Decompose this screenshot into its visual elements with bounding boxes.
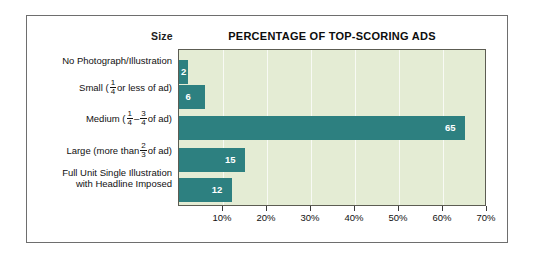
category-label-no-photograph: No Photograph/Illustration bbox=[8, 55, 178, 66]
fraction-denominator: 4 bbox=[110, 87, 116, 96]
fraction-numerator: 1 bbox=[127, 110, 133, 118]
fraction-three-quarters: 34 bbox=[140, 110, 146, 127]
fraction-numerator: 1 bbox=[110, 79, 116, 87]
bar-row-large: 15 bbox=[179, 148, 487, 172]
fraction-numerator: 3 bbox=[140, 110, 146, 118]
axis-label-40%: 40% bbox=[344, 212, 363, 223]
tick-40% bbox=[354, 206, 355, 211]
category-label-small: Small (14or less of ad) bbox=[8, 80, 178, 97]
category-label-suffix: of ad) bbox=[148, 145, 172, 156]
bar-small bbox=[179, 85, 205, 109]
fraction-numerator: 2 bbox=[140, 142, 146, 150]
tick-70% bbox=[486, 206, 487, 211]
axis-tick-marks bbox=[178, 206, 486, 211]
axis-tick-labels: 10%20%30%40%50%60%70% bbox=[178, 212, 486, 226]
fraction-one-quarter: 14 bbox=[110, 79, 116, 96]
bar-full-unit bbox=[179, 178, 232, 202]
category-label-medium: Medium (14–34of ad) bbox=[8, 111, 178, 128]
bar-medium bbox=[179, 116, 465, 140]
tick-60% bbox=[442, 206, 443, 211]
tick-30% bbox=[310, 206, 311, 211]
bar-value-label-medium: 65 bbox=[445, 123, 456, 133]
tick-20% bbox=[266, 206, 267, 211]
category-label-prefix: Small ( bbox=[79, 82, 109, 93]
axis-label-50%: 50% bbox=[388, 212, 407, 223]
bar-row-full-unit: 12 bbox=[179, 178, 487, 202]
size-column-header: Size bbox=[151, 30, 173, 42]
bar-value-label-large: 15 bbox=[225, 155, 236, 165]
bars-layer: 26651512 bbox=[179, 50, 485, 205]
bar-row-small: 6 bbox=[179, 85, 487, 109]
axis-label-10%: 10% bbox=[212, 212, 231, 223]
chart-title: PERCENTAGE OF TOP-SCORING ADS bbox=[178, 30, 486, 42]
axis-label-20%: 20% bbox=[256, 212, 275, 223]
fraction-two-thirds: 23 bbox=[140, 142, 146, 159]
category-label-full-unit: Full Unit Single Illustration with Headl… bbox=[8, 167, 178, 189]
category-label-prefix: Medium ( bbox=[86, 113, 126, 124]
category-label-large: Large (more than23of ad) bbox=[8, 143, 178, 160]
fraction-denominator: 4 bbox=[127, 118, 133, 127]
bar-value-label-small: 6 bbox=[185, 92, 190, 102]
fraction-denominator: 4 bbox=[140, 118, 146, 127]
axis-label-60%: 60% bbox=[432, 212, 451, 223]
category-label-text: No Photograph/Illustration bbox=[62, 55, 172, 66]
bar-row-medium: 65 bbox=[179, 116, 487, 140]
category-label-prefix: Large (more than bbox=[66, 145, 139, 156]
fraction-denominator: 3 bbox=[140, 150, 146, 159]
bar-value-label-full-unit: 12 bbox=[212, 185, 223, 195]
category-label-suffix: of ad) bbox=[148, 113, 172, 124]
category-label-suffix: or less of ad) bbox=[117, 82, 172, 93]
axis-label-70%: 70% bbox=[476, 212, 495, 223]
bar-row-no-photograph: 2 bbox=[179, 60, 487, 84]
fraction-one-quarter: 14 bbox=[127, 110, 133, 127]
plot-area: 26651512 bbox=[178, 49, 486, 206]
axis-label-30%: 30% bbox=[300, 212, 319, 223]
category-label-line2: with Headline Imposed bbox=[76, 178, 172, 189]
tick-10% bbox=[222, 206, 223, 211]
category-label-column: No Photograph/Illustration Small (14or l… bbox=[0, 49, 178, 206]
tick-50% bbox=[398, 206, 399, 211]
range-dash: – bbox=[134, 113, 139, 124]
bar-value-label-no-photograph: 2 bbox=[181, 67, 186, 77]
category-label-line1: Full Unit Single Illustration bbox=[62, 167, 172, 178]
